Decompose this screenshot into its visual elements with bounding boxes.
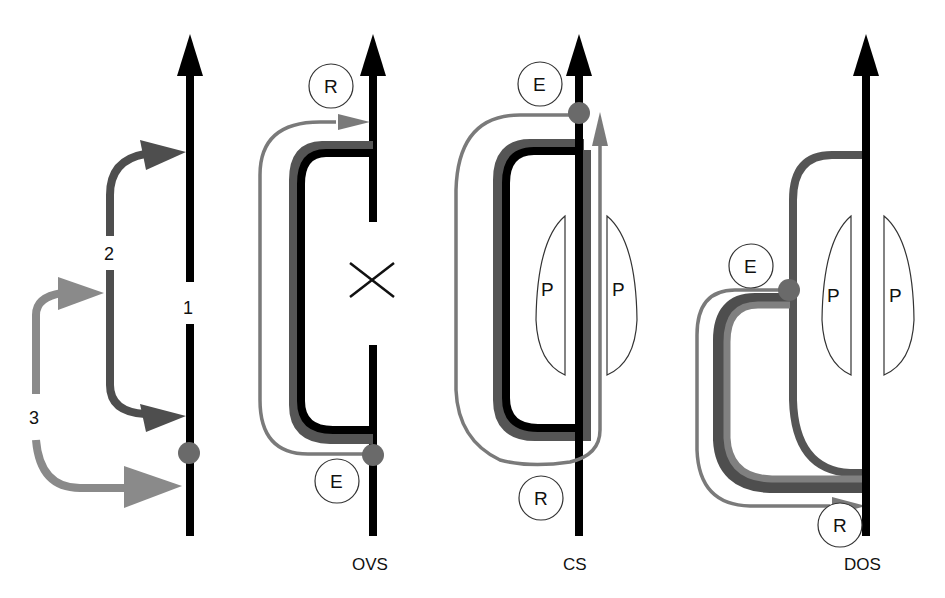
panel-ovs: R E OVS (260, 34, 394, 574)
junction-dot-icon (778, 279, 800, 301)
cross-icon (350, 263, 394, 297)
lobe-label-right: P (889, 285, 902, 306)
svg-text:E: E (330, 471, 343, 492)
panel-dos: P P E R DOS (697, 34, 914, 574)
loop-outer-gray (296, 148, 373, 437)
arrowhead-up-icon (177, 34, 203, 76)
arrowhead-right-icon (140, 404, 186, 432)
svg-text:E: E (744, 256, 757, 277)
arrowhead-right-icon (58, 277, 104, 310)
label-2: 2 (104, 244, 114, 264)
panel-1: 1 2 3 (29, 34, 203, 536)
panel-title: CS (563, 555, 587, 574)
svg-text:R: R (324, 76, 338, 97)
svg-text:R: R (833, 515, 847, 536)
arrowhead-up-icon (566, 34, 592, 76)
loop-inner-black (301, 153, 373, 430)
arrowhead-up-icon (592, 112, 608, 146)
panel-title: DOS (844, 555, 881, 574)
strand-2 (110, 140, 186, 432)
svg-text:E: E (533, 74, 546, 95)
circle-label-e: E (518, 62, 562, 106)
diagram-svg: 1 2 3 (0, 0, 945, 598)
junction-dot-icon (178, 442, 200, 464)
circle-label-r: R (818, 503, 862, 547)
diagram-canvas: 1 2 3 (0, 0, 945, 598)
lobe-label-left: P (827, 285, 840, 306)
arrowhead-up-icon (360, 34, 386, 76)
label-1: 1 (183, 298, 193, 318)
lobe-label-left: P (541, 279, 554, 300)
arrowhead-up-icon (853, 34, 879, 76)
svg-text:R: R (534, 488, 548, 509)
label-3: 3 (29, 408, 39, 428)
circle-label-r: R (309, 64, 353, 108)
lobe-label-right: P (612, 279, 625, 300)
arrowhead-right-icon (140, 140, 186, 170)
circle-label-r: R (519, 476, 563, 520)
panel-title: OVS (352, 555, 388, 574)
arrowhead-right-icon (338, 114, 370, 130)
circle-label-e: E (729, 244, 773, 288)
junction-dot-icon (568, 102, 590, 124)
junction-dot-icon (362, 444, 384, 466)
circle-label-e: E (315, 459, 359, 503)
thin-strand (260, 122, 370, 454)
panel-cs: P P E R CS (456, 34, 637, 574)
arrowhead-right-icon (124, 466, 182, 508)
main-strand (853, 34, 879, 536)
